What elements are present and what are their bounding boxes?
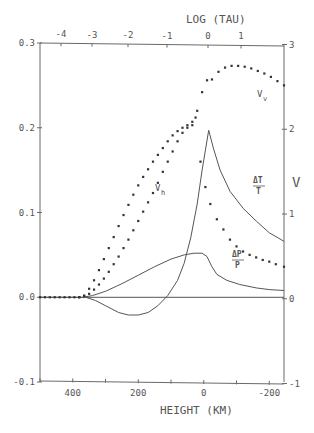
svg-text:T: T (256, 187, 261, 196)
x2-axis-title: LOG (TAU) (186, 13, 246, 26)
x-tick-label: -200 (258, 388, 280, 398)
series--t-t (40, 130, 284, 315)
top-axis (40, 43, 284, 46)
y2-axis-title: V (292, 174, 301, 190)
svg-text:ΔT: ΔT (253, 176, 263, 185)
delta-t-over-t-label: ΔT T (253, 176, 265, 196)
svg-text:v: v (263, 95, 267, 103)
y-tick-label: 0.0 (19, 292, 35, 302)
chart-figure: -0.10.00.10.20.3-101234002000-200-4-3-2-… (0, 0, 314, 433)
y2-tick-label: 0 (289, 294, 294, 304)
x2-tick-label: -4 (56, 29, 67, 39)
series--p-p (40, 253, 284, 297)
y2-tick-label: 3 (289, 40, 294, 50)
x-tick-label: 400 (65, 388, 81, 398)
delta-p-over-p-label: ΔP P (232, 250, 244, 270)
vv-label: V v (257, 89, 267, 103)
x2-tick-label: 0 (205, 31, 210, 41)
y-tick-label: -0.1 (13, 377, 35, 387)
svg-text:P: P (235, 261, 240, 270)
y2-tick-label: 1 (289, 209, 294, 219)
bottom-axis (40, 381, 284, 384)
x2-tick-label: -2 (123, 30, 134, 40)
x2-tick-label: -1 (162, 31, 173, 41)
y-tick-label: 0.3 (19, 38, 35, 48)
x2-tick-label: 1 (238, 31, 243, 41)
y-tick-label: 0.1 (19, 208, 35, 218)
y2-tick-label: 2 (289, 124, 294, 134)
axes: -0.10.00.10.20.3-101234002000-200-4-3-2-… (13, 29, 300, 398)
annotations: LOG (TAU) HEIGHT (KM) V V h V v ΔT T ΔP … (155, 13, 301, 417)
x-axis-title: HEIGHT (KM) (160, 404, 233, 417)
series-v-h (39, 116, 197, 298)
x-tick-label: 200 (130, 388, 146, 398)
series-v-v-lower-branch- (199, 161, 285, 268)
y2-tick-label: -1 (289, 379, 300, 389)
chart-svg: -0.10.00.10.20.3-101234002000-200-4-3-2-… (0, 0, 314, 433)
x2-tick-label: -3 (87, 30, 98, 40)
svg-text:h: h (161, 189, 165, 197)
y-tick-label: 0.2 (19, 123, 35, 133)
vh-label: V h (155, 183, 165, 197)
svg-text:ΔP: ΔP (232, 250, 242, 259)
x-tick-label: 0 (201, 388, 206, 398)
